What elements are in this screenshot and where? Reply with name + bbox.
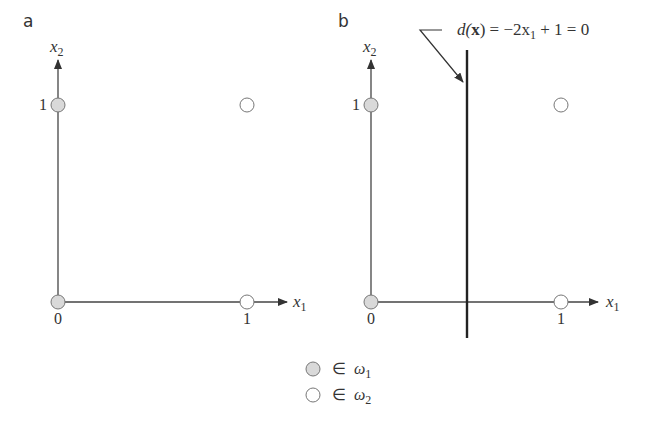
legend-label: ∈ω1: [332, 360, 371, 381]
decision-boundary-equation: d(x) = −2x1 + 1 = 0: [457, 20, 589, 42]
x-tick-1: 1: [557, 310, 565, 327]
point-class1: [51, 98, 65, 112]
y-axis-label: x2: [362, 37, 377, 59]
point-class1: [364, 98, 378, 112]
panel-b: b x2 x1 1 0 1 d(x) = −2x1 + 1 = 0: [338, 11, 620, 338]
point-class1: [364, 295, 378, 309]
legend-label: ∈ω2: [332, 386, 371, 407]
point-class2: [240, 295, 254, 309]
panel-label-a: a: [23, 11, 33, 31]
filled-circle-icon: [306, 362, 320, 376]
empty-circle-icon: [306, 388, 320, 402]
x-tick-1: 1: [243, 310, 251, 327]
y-tick-1: 1: [39, 96, 47, 113]
point-class2: [240, 98, 254, 112]
panel-label-b: b: [338, 11, 349, 31]
legend: ∈ω1 ∈ω2: [306, 360, 371, 407]
panel-a: a x2 x1 1 0 1: [23, 11, 307, 327]
x-tick-0: 0: [54, 310, 62, 327]
x-tick-0: 0: [367, 310, 375, 327]
x-axis-label: x1: [292, 292, 307, 314]
y-tick-1: 1: [352, 96, 360, 113]
y-axis-label: x2: [49, 37, 64, 59]
point-class1: [51, 295, 65, 309]
point-class2: [554, 295, 568, 309]
figure: a x2 x1 1 0 1 b x2 x1 1 0 1 d(x) = −2x1 …: [0, 0, 667, 435]
legend-item-class1: ∈ω1: [306, 360, 371, 381]
point-class2: [554, 98, 568, 112]
x-axis-label: x1: [605, 292, 620, 314]
legend-item-class2: ∈ω2: [306, 386, 371, 407]
